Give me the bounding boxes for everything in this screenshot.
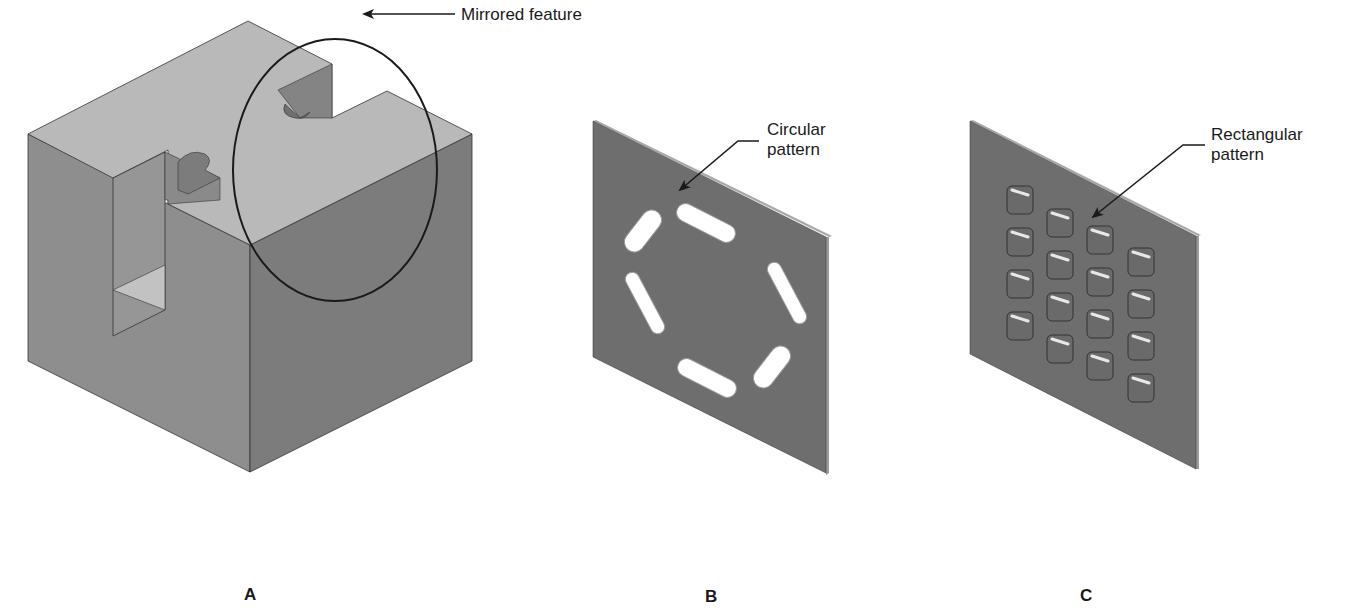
panel-b-plate [593, 120, 832, 475]
plate-b-right-edge [826, 237, 829, 475]
caption-a: A [244, 585, 256, 604]
slot-inner-wall-left [113, 152, 165, 336]
circular-pattern-label-line1: Circular [767, 120, 826, 139]
plate-c-face [970, 121, 1196, 469]
mirrored-feature-label: Mirrored feature [461, 5, 582, 24]
caption-b: B [705, 587, 717, 606]
rectangular-pattern-label-line1: Rectangular [1211, 125, 1303, 144]
circular-pattern-label-line2: pattern [767, 140, 820, 159]
panel-a-block [28, 21, 472, 472]
rectangular-pattern-label-line2: pattern [1211, 145, 1264, 164]
caption-c: C [1080, 586, 1092, 605]
figure-canvas: Mirrored feature A Circular pattern B [0, 0, 1353, 611]
panel-c-plate [970, 120, 1201, 469]
